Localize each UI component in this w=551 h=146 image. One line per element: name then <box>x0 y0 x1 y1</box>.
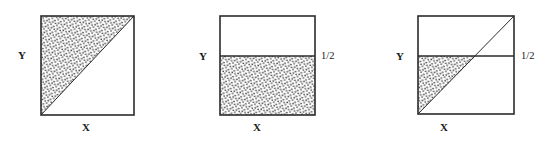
panel-3-x-axis-label: X <box>440 121 448 133</box>
panel-2-y-axis-label: Y <box>199 50 207 62</box>
panel-2-half-label: 1/2 <box>321 50 334 61</box>
figure-canvas: Y X Y X 1/2 Y X 1/2 <box>0 0 551 146</box>
panel-1-y-axis-label: Y <box>18 49 26 61</box>
panel-3-half-label: 1/2 <box>521 50 534 61</box>
panel-2-x-axis-label: X <box>253 121 261 133</box>
probability-diagram-figure: Y X Y X 1/2 Y X 1/2 <box>0 0 551 146</box>
panel-1-x-axis-label: X <box>82 121 90 133</box>
panel-3-y-axis-label: Y <box>396 50 404 62</box>
panel-2-shaded-region <box>220 56 315 115</box>
panel-2-stipple-fill <box>220 56 315 115</box>
